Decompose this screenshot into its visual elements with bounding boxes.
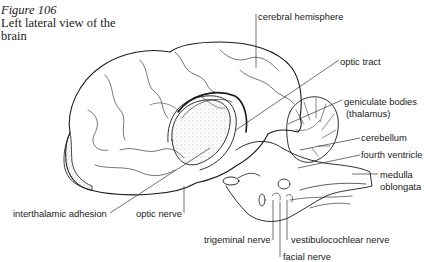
label-thalamus: (thalamus) [346, 108, 390, 119]
olfactory-region [64, 133, 92, 190]
label-optic-nerve: optic nerve [136, 208, 182, 219]
leader-interthalamic-adhesion [110, 148, 210, 213]
label-medulla: medulla [380, 169, 413, 180]
label-interthalamic-adhesion: interthalamic adhesion [13, 208, 107, 219]
label-oblongata: oblongata [380, 181, 421, 192]
label-facial-nerve: facial nerve [283, 251, 331, 262]
label-cerebral-hemisphere: cerebral hemisphere [258, 11, 343, 22]
label-trigeminal-nerve: trigeminal nerve [204, 234, 271, 245]
leader-cerebellum [300, 138, 360, 150]
brain-illustration [0, 0, 429, 262]
label-fourth-ventricle: fourth ventricle [361, 149, 423, 160]
label-vestibulocochlear-nerve: vestibulocochlear nerve [291, 234, 390, 245]
label-cerebellum: cerebellum [361, 132, 407, 143]
leader-fourth-ventricle [298, 155, 360, 168]
label-geniculate-bodies: geniculate bodies [344, 96, 417, 107]
label-optic-tract: optic tract [340, 56, 381, 67]
brainstem [226, 141, 372, 221]
cerebellum [287, 97, 339, 163]
